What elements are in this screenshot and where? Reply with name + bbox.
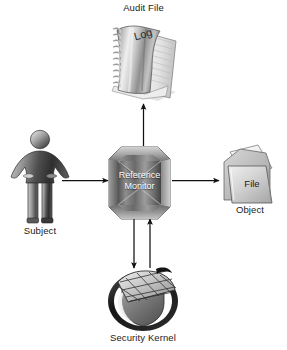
person-figure-icon <box>11 130 69 223</box>
security-kernel-label: Security Kernel <box>78 333 208 343</box>
subject-label: Subject <box>0 226 80 236</box>
beveled-octagon-icon <box>109 147 170 219</box>
spiral-notebook-icon <box>112 26 176 101</box>
file-folder-icon <box>224 145 272 203</box>
security-architecture-diagram: Audit File Log Subject Reference Monitor… <box>0 0 287 350</box>
audit-file-label: Audit File <box>0 3 287 13</box>
object-label: Object <box>220 205 280 215</box>
shield-grid-icon <box>108 268 178 331</box>
diagram-canvas <box>0 0 287 350</box>
